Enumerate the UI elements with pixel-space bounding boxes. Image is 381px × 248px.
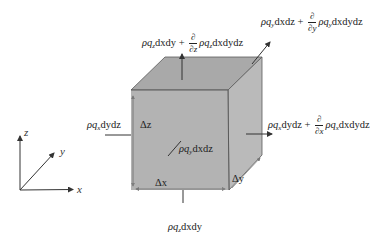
dy-label: Δy	[232, 174, 244, 185]
right-outflow-label: ρqxdydz + ∂∂xρqxdxdydz	[268, 115, 370, 136]
dx-label: Δx	[155, 178, 167, 189]
back-outflow-label: ρqydxdz + ∂∂yρqydxdydz	[261, 12, 363, 33]
cube-front-face	[131, 90, 229, 190]
left-inflow-label: ρqxdydz	[87, 120, 121, 132]
x-axis-label: x	[77, 184, 82, 195]
partial-fraction: ∂∂x	[315, 115, 323, 136]
dz-label: Δz	[140, 120, 151, 131]
partial-fraction: ∂∂y	[308, 12, 316, 33]
coordinate-axes	[20, 136, 73, 190]
front-inflow-label: ρqydxdz	[179, 144, 213, 156]
control-volume-diagram: z y x Δz Δx Δy ρqzdxdy + ∂∂zρqzdxdydz ρq…	[0, 0, 381, 248]
z-axis-label: z	[24, 127, 28, 138]
y-axis-arrow	[20, 153, 54, 190]
partial-fraction: ∂∂z	[189, 33, 197, 54]
bottom-inflow-label: ρqzdxdy	[168, 222, 202, 234]
y-axis-label: y	[60, 146, 65, 157]
top-outflow-label: ρqzdxdy + ∂∂zρqzdxdydz	[142, 33, 243, 54]
x-axis-arrow	[20, 190, 73, 191]
